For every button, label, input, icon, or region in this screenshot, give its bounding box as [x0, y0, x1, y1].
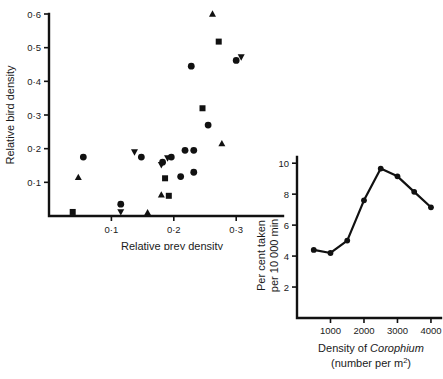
scatter-y-tick-label: 0·4 [27, 76, 41, 87]
figure-canvas: 0·10·20·30·40·50·60·10·20·3Relative prey… [0, 0, 443, 379]
scatter-point-triangle-up [218, 140, 225, 146]
caption-density-of: Density of [318, 342, 370, 354]
line-panel: 2468101000200030004000Per cent takenper … [245, 149, 443, 379]
line-y-tick-label: 6 [284, 220, 289, 231]
scatter-point-circle [177, 173, 184, 180]
line-series-points [311, 166, 434, 256]
line-x-tick-label: 4000 [420, 325, 441, 336]
caption-close-paren: ) [407, 357, 411, 369]
line-data-point [395, 173, 401, 179]
scatter-point-circle [182, 147, 189, 154]
line-y-tick-label: 2 [284, 282, 289, 293]
scatter-x-tick-label: 0·1 [105, 224, 119, 235]
scatter-y-tick-label: 0·5 [27, 42, 41, 53]
line-series-path [314, 169, 431, 253]
line-axis-spine [297, 157, 441, 318]
line-data-point [378, 166, 384, 172]
line-data-point [328, 250, 334, 256]
scatter-y-tick-label: 0·6 [27, 9, 41, 20]
line-y-axis-label-line1: Per cent taken [255, 220, 267, 291]
line-x-tick-label: 3000 [387, 325, 408, 336]
scatter-point-circle [117, 201, 124, 208]
scatter-point-triangle-down [131, 149, 138, 155]
scatter-point-square [216, 39, 222, 45]
line-data-point [311, 247, 317, 253]
scatter-point-circle [80, 154, 87, 161]
scatter-point-square [70, 209, 76, 215]
scatter-x-tick-label: 0·2 [167, 224, 181, 235]
scatter-point-circle [233, 57, 240, 64]
scatter-points [70, 10, 245, 215]
scatter-y-tick-label: 0·1 [27, 177, 41, 188]
line-x-tick-label: 1000 [320, 325, 341, 336]
line-y-tick-label: 4 [284, 251, 289, 262]
line-x-caption-line1: Density of Corophium [318, 342, 424, 354]
scatter-point-circle [190, 169, 197, 176]
scatter-point-circle [205, 122, 212, 129]
line-y-tick-label: 10 [278, 158, 289, 169]
line-data-point [411, 189, 417, 195]
line-data-point [361, 197, 367, 203]
line-x-caption-line2: (number per m2) [331, 356, 411, 369]
scatter-point-triangle-up [144, 209, 151, 215]
line-data-point [428, 204, 434, 210]
scatter-y-tick-label: 0·2 [27, 143, 41, 154]
caption-species-name: Corophium [370, 342, 424, 354]
line-y-tick-label: 8 [284, 189, 289, 200]
scatter-point-circle [190, 147, 197, 154]
scatter-point-triangle-up [75, 174, 82, 180]
scatter-point-square [162, 175, 168, 181]
scatter-point-triangle-up [158, 191, 165, 197]
scatter-point-square [166, 193, 172, 199]
scatter-point-circle [188, 63, 195, 70]
caption-number-per-m: (number per m [331, 357, 403, 369]
scatter-y-axis-label: Relative bird density [4, 65, 16, 165]
line-axes: 2468101000200030004000Per cent takenper … [255, 157, 442, 369]
scatter-x-axis-label: Relative prey density [121, 240, 224, 250]
scatter-y-tick-label: 0·3 [27, 110, 41, 121]
scatter-point-circle [138, 154, 145, 161]
scatter-point-triangle-up [209, 10, 216, 16]
scatter-x-tick-label: 0·3 [229, 224, 243, 235]
line-x-tick-label: 2000 [353, 325, 374, 336]
scatter-axes: 0·10·20·30·40·50·60·10·20·3Relative prey… [4, 9, 283, 250]
line-data-point [344, 238, 350, 244]
line-y-axis-label-line2: per 10 000 min [268, 219, 280, 292]
scatter-point-square [200, 105, 206, 111]
scatter-point-triangle-down [117, 209, 124, 215]
